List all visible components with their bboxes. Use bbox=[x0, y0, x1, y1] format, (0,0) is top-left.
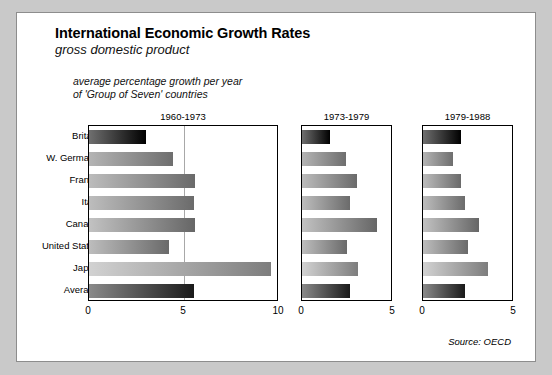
title-block: International Economic Growth Rates gros… bbox=[55, 25, 310, 57]
xtick-1960-1973-5: 5 bbox=[171, 305, 195, 316]
annotation-line-2: of 'Group of Seven' countries bbox=[73, 88, 242, 101]
bar-1960-1973-britain bbox=[89, 130, 146, 144]
bar-1979-1988-britain bbox=[423, 130, 461, 144]
bar-1973-1979-japan bbox=[302, 262, 358, 276]
bar-1960-1973-italy bbox=[89, 196, 194, 210]
panel-header-1960-1973: 1960-1973 bbox=[88, 111, 278, 122]
xtick-1979-1988-5: 5 bbox=[501, 305, 525, 316]
bar-1979-1988-italy bbox=[423, 196, 465, 210]
xtick-1973-1979-0: 0 bbox=[289, 305, 313, 316]
plot-area-1960-1973 bbox=[88, 125, 278, 301]
bar-1979-1988-w-germany bbox=[423, 152, 453, 166]
bar-1973-1979-average bbox=[302, 284, 350, 298]
bar-1960-1973-united-states bbox=[89, 240, 169, 254]
panel-header-1979-1988: 1979-1988 bbox=[422, 111, 513, 122]
chart-annotation: average percentage growth per year of 'G… bbox=[73, 75, 242, 101]
xtick-1960-1973-10: 10 bbox=[266, 305, 290, 316]
bar-1960-1973-france bbox=[89, 174, 195, 188]
bar-1973-1979-w-germany bbox=[302, 152, 346, 166]
plot-area-1973-1979 bbox=[301, 125, 392, 301]
annotation-line-1: average percentage growth per year bbox=[73, 75, 242, 88]
bar-1960-1973-average bbox=[89, 284, 194, 298]
panel-header-1973-1979: 1973-1979 bbox=[301, 111, 392, 122]
bar-1979-1988-japan bbox=[423, 262, 488, 276]
xtick-1960-1973-0: 0 bbox=[76, 305, 100, 316]
plot-area-1979-1988 bbox=[422, 125, 513, 301]
bar-1979-1988-united-states bbox=[423, 240, 468, 254]
source-note: Source: OECD bbox=[448, 336, 511, 347]
bar-1960-1973-japan bbox=[89, 262, 271, 276]
xtick-1979-1988-0: 0 bbox=[410, 305, 434, 316]
bar-1960-1973-w-germany bbox=[89, 152, 173, 166]
bar-1973-1979-united-states bbox=[302, 240, 347, 254]
bar-1973-1979-france bbox=[302, 174, 357, 188]
xtick-1973-1979-5: 5 bbox=[380, 305, 404, 316]
bar-1973-1979-italy bbox=[302, 196, 350, 210]
bar-1979-1988-france bbox=[423, 174, 461, 188]
page-subtitle: gross domestic product bbox=[55, 42, 310, 57]
bar-1960-1973-canada bbox=[89, 218, 195, 232]
bar-1973-1979-canada bbox=[302, 218, 377, 232]
bar-1979-1988-canada bbox=[423, 218, 479, 232]
bar-1973-1979-britain bbox=[302, 130, 330, 144]
bar-1979-1988-average bbox=[423, 284, 465, 298]
page-title: International Economic Growth Rates bbox=[55, 25, 310, 41]
figure-panel: International Economic Growth Rates gros… bbox=[16, 12, 536, 362]
